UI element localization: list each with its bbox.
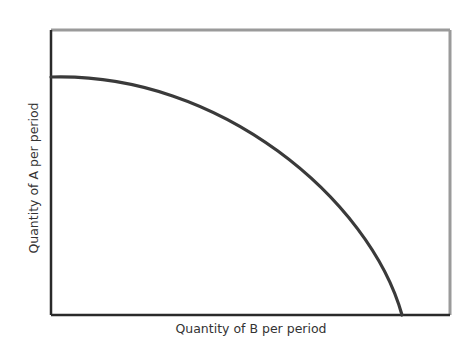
y-axis-label: Quantity of A per period [26,102,41,253]
plot-frame [51,30,450,315]
production-possibilities-curve [51,77,402,315]
x-axis-label: Quantity of B per period [175,321,326,336]
chart: Quantity of B per period Quantity of A p… [0,0,464,344]
